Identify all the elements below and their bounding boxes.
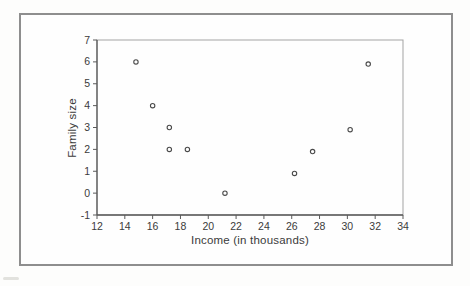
data-point <box>134 60 138 64</box>
data-point <box>366 62 370 66</box>
x-tick-label: 24 <box>258 220 270 232</box>
data-point <box>292 171 296 175</box>
data-point <box>167 125 171 129</box>
scanned-figure: 12141618202224262830323476543210-1 Famil… <box>0 0 470 286</box>
x-tick-label: 12 <box>91 220 103 232</box>
x-tick-label: 18 <box>175 220 187 232</box>
data-point <box>348 127 352 131</box>
y-tick-label: 1 <box>84 165 90 177</box>
data-point <box>150 103 154 107</box>
data-point <box>167 147 171 151</box>
x-tick-label: 16 <box>147 220 159 232</box>
x-tick-label: 14 <box>119 220 131 232</box>
y-tick-label: 0 <box>84 187 90 199</box>
x-tick-label: 22 <box>230 220 242 232</box>
x-tick-label: 30 <box>342 220 354 232</box>
scan-artifact <box>3 277 19 280</box>
x-tick-label: 32 <box>369 220 381 232</box>
data-point <box>310 149 314 153</box>
x-tick-label: 20 <box>202 220 214 232</box>
y-tick-label: -1 <box>81 209 90 221</box>
y-tick-label: 2 <box>84 143 90 155</box>
y-tick-label: 6 <box>84 55 90 67</box>
x-tick-label: 26 <box>286 220 298 232</box>
x-tick-label: 28 <box>314 220 326 232</box>
y-tick-label: 7 <box>84 34 90 46</box>
y-tick-label: 4 <box>84 99 90 111</box>
x-axis-label: Income (in thousands) <box>97 234 403 246</box>
y-axis-label: Family size <box>66 98 78 158</box>
y-tick-label: 3 <box>84 121 90 133</box>
plot-box <box>97 40 403 215</box>
data-point <box>185 147 189 151</box>
x-tick-label: 34 <box>397 220 409 232</box>
y-tick-label: 5 <box>84 77 90 89</box>
data-point <box>223 191 227 195</box>
